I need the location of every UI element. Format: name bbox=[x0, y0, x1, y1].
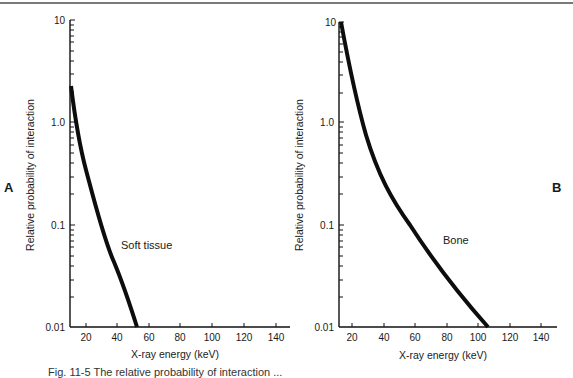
y-tick-label: 0.1 bbox=[320, 220, 334, 231]
x-tick-label: 60 bbox=[143, 332, 155, 343]
x-tick-label: 40 bbox=[378, 332, 390, 343]
y-axis-label: Relative probability of interaction bbox=[24, 99, 36, 251]
y-tick-label: 0.1 bbox=[51, 220, 65, 231]
x-tick-label: 140 bbox=[268, 332, 285, 343]
y-axis-label: Relative probability of interaction bbox=[293, 99, 305, 251]
series-label-soft-tissue: Soft tissue bbox=[121, 239, 172, 251]
x-tick-label: 100 bbox=[470, 332, 487, 343]
x-tick-label: 60 bbox=[409, 332, 421, 343]
y-minor-ticks bbox=[70, 20, 75, 297]
x-tick-label: 120 bbox=[502, 332, 519, 343]
x-axis-label: X-ray energy (keV) bbox=[131, 348, 219, 360]
x-tick-label: 40 bbox=[111, 332, 123, 343]
x-axis-label: X-ray energy (keV) bbox=[399, 349, 487, 361]
y-tick-label: 1.0 bbox=[51, 117, 65, 128]
y-tick-label: 10 bbox=[54, 15, 66, 26]
x-tick-label: 120 bbox=[236, 332, 253, 343]
x-tick-label: 80 bbox=[174, 332, 186, 343]
x-tick-label: 20 bbox=[80, 332, 92, 343]
y-tick-label: 10 bbox=[325, 17, 337, 28]
y-tick-label: 0.01 bbox=[46, 322, 66, 333]
x-tick-label: 20 bbox=[346, 332, 358, 343]
x-tick-label: 140 bbox=[533, 332, 550, 343]
x-tick-label: 100 bbox=[204, 332, 221, 343]
series-label-bone: Bone bbox=[443, 234, 469, 246]
panel-a-chart: 10 1.0 0.1 0.01 20 40 60 80 100 120 140 … bbox=[24, 15, 290, 360]
x-tick-label: 80 bbox=[441, 332, 453, 343]
y-minor-ticks bbox=[339, 22, 344, 297]
figure-caption: Fig. 11-5 The relative probability of in… bbox=[48, 366, 282, 378]
bone-curve bbox=[341, 22, 488, 327]
soft-tissue-curve bbox=[71, 86, 137, 327]
panel-b-chart: 10 1.0 0.1 0.01 20 40 60 80 100 120 140 … bbox=[293, 17, 557, 361]
panel-letter-a: A bbox=[4, 180, 13, 195]
y-tick-label: 0.01 bbox=[315, 322, 335, 333]
y-tick-label: 1.0 bbox=[320, 117, 334, 128]
panel-letter-b: B bbox=[552, 180, 561, 195]
